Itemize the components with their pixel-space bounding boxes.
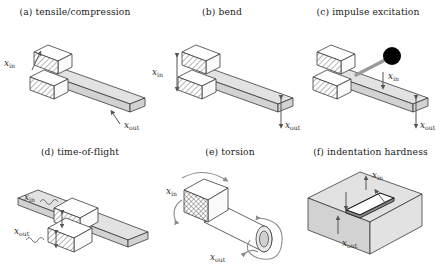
impulse-hammer-c xyxy=(356,47,401,75)
fixed-block-e xyxy=(184,179,228,222)
panel-torsion: (e) torsion xyxy=(160,140,300,276)
drawing-bend: xin xout xyxy=(148,22,296,142)
panel-indentation-hardness: (f) indentation hardness xi xyxy=(298,140,443,276)
clamp-block-upper-b xyxy=(182,45,220,74)
x-in-label-a: xin xyxy=(4,58,15,69)
drawing-tensile-compression: xin xout xyxy=(0,22,150,142)
panel-bend: (b) bend xyxy=(148,0,296,138)
clamp-block-upper-c xyxy=(317,45,355,74)
drawing-torsion: xin xout xyxy=(160,160,300,274)
x-in-label-b: xin xyxy=(152,67,163,78)
x-out-arrow-a xyxy=(112,112,120,124)
clamp-block-upper-a xyxy=(34,45,72,74)
x-out-label-c: xout xyxy=(420,120,436,131)
panel-impulse-excitation: (c) impulse excitation xyxy=(293,0,443,138)
x-out-wave-d xyxy=(26,238,44,243)
drawing-impulse-excitation: xin xout xyxy=(293,22,443,142)
panel-title-e: (e) torsion xyxy=(160,146,300,157)
panel-title-c: (c) impulse excitation xyxy=(293,6,443,17)
panel-title-a: (a) tensile/compression xyxy=(0,6,150,17)
x-out-label-a: xout xyxy=(124,120,140,131)
panel-title-d: (d) time-of-flight xyxy=(0,146,160,157)
x-out-label-e: xout xyxy=(210,252,226,263)
panel-title-f: (f) indentation hardness xyxy=(298,146,443,157)
x-out-label-d: xout xyxy=(14,226,30,237)
x-in-label-e: xin xyxy=(166,186,177,197)
x-in-label-c: xin xyxy=(388,71,399,82)
panel-time-of-flight: (d) time-of-flight xyxy=(0,140,160,276)
panel-tensile-compression: (a) tensile/compression xyxy=(0,0,150,138)
drawing-time-of-flight: xin xout xyxy=(0,162,160,274)
panel-title-b: (b) bend xyxy=(148,6,296,17)
drawing-indentation-hardness: xin xout xyxy=(298,162,443,274)
figure-root: (a) tensile/compression xyxy=(0,0,443,276)
hammer-head-icon xyxy=(383,47,401,65)
x-in-label-f: xin xyxy=(372,170,383,181)
